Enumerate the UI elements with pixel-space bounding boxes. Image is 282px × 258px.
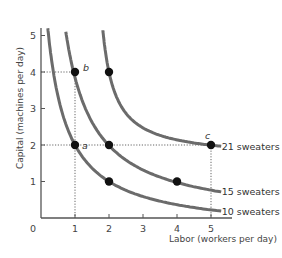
data-point (105, 68, 113, 76)
curve-label: 15 sweaters (222, 186, 280, 197)
x-tick-label: 1 (72, 223, 78, 234)
data-point (105, 141, 113, 149)
x-tick-label: 5 (208, 223, 214, 234)
isoquant-curve (66, 32, 221, 192)
data-point (71, 68, 79, 76)
y-axis-title: Capital (machines per day) (15, 47, 25, 169)
x-axis-title: Labor (workers per day) (169, 234, 277, 244)
isoquant-curves (48, 28, 221, 211)
y-tick-label: 4 (30, 67, 36, 78)
y-tick-label: 1 (30, 176, 36, 187)
data-point (105, 177, 113, 185)
y-tick-label: 3 (30, 103, 36, 114)
y-tick-label: 2 (30, 140, 36, 151)
isoquant-curve (48, 28, 221, 211)
data-point (173, 177, 181, 185)
isoquant-curve (103, 30, 221, 146)
y-tick-label: 5 (30, 30, 36, 41)
x-tick-label: 4 (174, 223, 180, 234)
curve-label: 10 sweaters (222, 206, 280, 217)
x-tick-label: 2 (106, 223, 112, 234)
isoquant-chart: 01234512345 Labor (workers per day) Capi… (0, 0, 282, 258)
reference-dotted-lines (41, 72, 211, 218)
data-point (71, 141, 79, 149)
point-label-b: b (83, 62, 89, 73)
point-label-c: c (205, 130, 211, 141)
axis-ticks: 01234512345 (30, 30, 214, 234)
x-tick-label: 0 (30, 223, 36, 234)
x-tick-label: 3 (140, 223, 146, 234)
curve-label: 21 sweaters (222, 141, 280, 152)
point-label-a: a (82, 140, 88, 151)
data-point (207, 141, 215, 149)
